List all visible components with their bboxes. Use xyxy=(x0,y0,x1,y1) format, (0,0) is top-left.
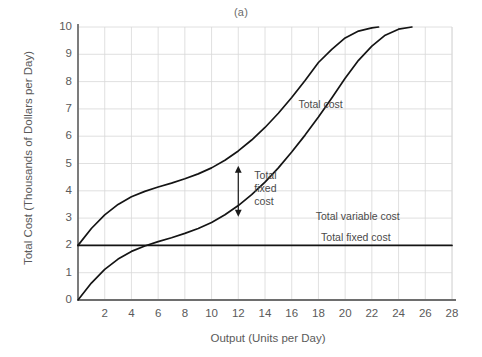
annotation-line: cost xyxy=(254,195,276,208)
y-tick-label: 1 xyxy=(50,266,72,278)
y-tick-label: 3 xyxy=(50,211,72,223)
axes xyxy=(78,24,456,300)
annotation-line: Total xyxy=(254,169,276,182)
annotation-total-fixed-cost: Totalfixedcost xyxy=(254,169,276,208)
y-axis-label: Total Cost (Thousands of Dollars per Day… xyxy=(22,18,34,298)
x-tick-label: 8 xyxy=(174,307,196,319)
x-tick-label: 20 xyxy=(334,307,356,319)
x-axis-label: Output (Units per Day) xyxy=(78,332,458,344)
x-tick-label: 24 xyxy=(388,307,410,319)
x-tick-label: 16 xyxy=(281,307,303,319)
y-tick-label: 10 xyxy=(50,20,72,32)
panel-title: (a) xyxy=(0,6,482,18)
y-tick-label: 7 xyxy=(50,102,72,114)
series-label-total-variable-cost: Total variable cost xyxy=(316,210,400,223)
y-tick-label: 5 xyxy=(50,157,72,169)
y-tick-label: 6 xyxy=(50,129,72,141)
plot-canvas xyxy=(0,0,482,357)
chart-figure: (a) Total Cost (Thousands of Dollars per… xyxy=(0,0,482,357)
annotation-line: fixed xyxy=(254,182,276,195)
y-tick-label: 2 xyxy=(50,238,72,250)
gridlines xyxy=(78,27,452,300)
x-tick-label: 12 xyxy=(227,307,249,319)
annotations-layer xyxy=(235,166,242,217)
x-tick-label: 6 xyxy=(147,307,169,319)
x-tick-label: 28 xyxy=(441,307,463,319)
x-tick-label: 2 xyxy=(94,307,116,319)
x-tick-label: 26 xyxy=(414,307,436,319)
series-label-total-cost: Total cost xyxy=(298,98,342,111)
y-tick-label: 9 xyxy=(50,47,72,59)
x-tick-label: 4 xyxy=(120,307,142,319)
y-tick-label: 4 xyxy=(50,184,72,196)
x-tick-label: 10 xyxy=(201,307,223,319)
x-tick-label: 22 xyxy=(361,307,383,319)
series-label-total-fixed-cost: Total fixed cost xyxy=(321,231,390,244)
x-tick-label: 18 xyxy=(307,307,329,319)
x-tick-label: 14 xyxy=(254,307,276,319)
y-tick-label: 0 xyxy=(50,293,72,305)
y-tick-label: 8 xyxy=(50,75,72,87)
